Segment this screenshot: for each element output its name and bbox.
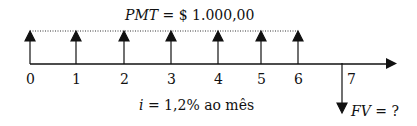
period-0: 0 [26, 72, 35, 86]
pmt-value: = $ 1.000,00 [158, 7, 254, 23]
period-2: 2 [120, 72, 129, 86]
period-7: 7 [347, 72, 356, 86]
pmt-variable: PMT [125, 7, 158, 23]
fv-variable: FV [351, 103, 371, 119]
period-5: 5 [257, 72, 266, 86]
period-3: 3 [167, 72, 176, 86]
period-1: 1 [72, 72, 81, 86]
rate-value: = 1,2% ao mês [143, 97, 254, 113]
fv-label: FV = ? [351, 104, 399, 118]
axis-arrowhead-icon [386, 58, 397, 69]
period-4: 4 [214, 72, 223, 86]
payment-arrows [25, 31, 303, 64]
fv-value: = ? [371, 103, 399, 119]
pmt-label: PMT = $ 1.000,00 [125, 8, 254, 22]
period-6: 6 [294, 72, 303, 86]
fv-arrow [337, 63, 347, 113]
rate-label: i = 1,2% ao mês [139, 98, 254, 112]
